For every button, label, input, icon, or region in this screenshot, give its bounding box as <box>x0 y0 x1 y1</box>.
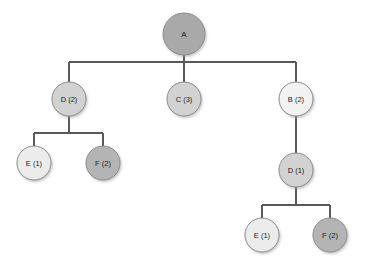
node-label-e1-left: E (1) <box>26 159 43 168</box>
node-d2-left[interactable]: D (2) <box>52 82 86 116</box>
node-b2[interactable]: B (2) <box>279 82 313 116</box>
node-label-e1-right: E (1) <box>254 231 271 240</box>
node-label-c3: C (3) <box>176 95 193 104</box>
node-root-a[interactable]: A <box>163 13 205 55</box>
node-label-b2: B (2) <box>288 95 305 104</box>
node-f2-left[interactable]: F (2) <box>86 146 120 180</box>
node-label-d1-right: D (1) <box>288 166 305 175</box>
node-label-f2-left: F (2) <box>95 159 111 168</box>
node-e1-right[interactable]: E (1) <box>245 218 279 252</box>
node-c3[interactable]: C (3) <box>167 82 201 116</box>
tree-diagram: A D (2) C (3) B (2) E (1) F (2) D (1) <box>0 0 366 270</box>
node-e1-left[interactable]: E (1) <box>17 146 51 180</box>
node-label-root-a: A <box>181 30 187 39</box>
node-label-d2-left: D (2) <box>61 95 78 104</box>
node-f2-right[interactable]: F (2) <box>313 218 347 252</box>
node-label-f2-right: F (2) <box>322 231 338 240</box>
node-d1-right[interactable]: D (1) <box>279 153 313 187</box>
